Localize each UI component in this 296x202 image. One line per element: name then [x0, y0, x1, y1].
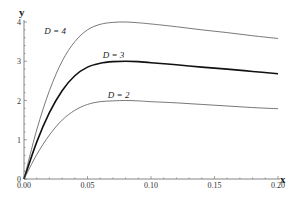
curves — [24, 22, 278, 179]
curve-labels: D = 4D = 3D = 2 — [43, 26, 130, 100]
series-line — [24, 22, 278, 179]
y-tick-label: 3 — [17, 57, 21, 66]
x-tick-label: 0.10 — [144, 181, 158, 190]
y-tick-label: 2 — [17, 97, 21, 106]
series-line — [24, 101, 278, 180]
curve-label: D = 2 — [107, 90, 130, 100]
y-tick-label: 1 — [17, 136, 21, 145]
x-tick-label: 0.15 — [208, 181, 222, 190]
x-ticks: 0.000.050.100.150.20 — [17, 176, 285, 190]
x-tick-label: 0.05 — [81, 181, 95, 190]
y-tick-label: 4 — [17, 18, 21, 27]
curve-label: D = 3 — [102, 50, 125, 60]
y-axis-title: y — [19, 6, 25, 18]
y-tick-label: 0 — [17, 175, 21, 184]
y-ticks: 01234 — [17, 18, 27, 184]
curve-label: D = 4 — [43, 26, 66, 36]
x-axis-title: x — [280, 173, 286, 185]
line-chart: 0.000.050.100.150.20 01234 x y D = 4D = … — [0, 0, 296, 202]
